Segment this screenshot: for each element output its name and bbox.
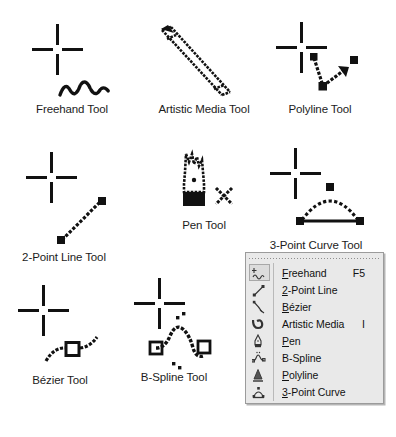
curve-tools-flyout[interactable]: FreehandF52-Point LineBézierArtistic Med… xyxy=(245,252,384,404)
artistic-media-tool-artwork xyxy=(140,22,268,102)
flyout-item-list: FreehandF52-Point LineBézierArtistic Med… xyxy=(246,263,383,403)
paintbrush-icon xyxy=(140,22,268,102)
figure-label: Pen Tool xyxy=(140,218,268,232)
menu-item-label: 2-Point Line xyxy=(273,284,355,296)
three-point-curve-tool-artwork xyxy=(252,148,380,228)
b-spline-menu-icon xyxy=(246,349,273,366)
menu-item-label: Freehand xyxy=(270,267,343,279)
menu-item-three-point-curve[interactable]: 3-Point Curve xyxy=(246,383,383,400)
figure-three-point-curve-tool: 3-Point Curve Tool xyxy=(252,148,380,252)
figure-label: Bézier Tool xyxy=(0,373,124,387)
menu-item-pen[interactable]: Pen xyxy=(246,332,383,349)
menu-item-accelerator: I xyxy=(352,318,377,330)
three-point-curve-menu-icon xyxy=(246,383,273,400)
b-spline-tool-artwork xyxy=(110,278,238,358)
figure-bezier-tool: Bézier Tool xyxy=(0,285,124,387)
menu-item-accelerator: F5 xyxy=(343,267,377,279)
figure-label: Polyline Tool xyxy=(256,102,384,116)
menu-item-b-spline[interactable]: B-Spline xyxy=(246,349,383,366)
b-spline-curve-icon xyxy=(110,278,238,360)
menu-item-label: 3-Point Curve xyxy=(273,386,355,398)
menu-item-label: B-Spline xyxy=(273,352,355,364)
bezier-menu-icon xyxy=(246,298,273,315)
bezier-tool-artwork xyxy=(0,285,124,365)
menu-item-two-point-line[interactable]: 2-Point Line xyxy=(246,281,383,298)
figure-label: Freehand Tool xyxy=(8,102,136,116)
figure-freehand-tool: Freehand Tool xyxy=(8,22,136,116)
menu-item-freehand[interactable]: FreehandF5 xyxy=(246,264,383,281)
pen-menu-icon xyxy=(246,332,273,349)
figure-label: B-Spline Tool xyxy=(110,370,238,384)
menu-item-bezier[interactable]: Bézier xyxy=(246,298,383,315)
two-point-line-menu-icon xyxy=(246,281,273,298)
figure-artistic-media-tool: Artistic Media Tool xyxy=(140,22,268,116)
figure-pen-tool: Pen Tool xyxy=(140,152,268,232)
polyline-arrow-icon xyxy=(256,22,384,102)
menu-item-artistic-media[interactable]: Artistic MediaI xyxy=(246,315,383,332)
menu-item-label: Pen xyxy=(273,335,355,347)
figure-label: 2-Point Line Tool xyxy=(0,250,128,264)
freehand-squiggle-icon xyxy=(8,22,136,102)
menu-item-label: Bézier xyxy=(273,301,355,313)
polyline-tool-artwork xyxy=(256,22,384,102)
two-point-line-tool-artwork xyxy=(0,152,128,232)
freehand-tool-artwork xyxy=(8,22,136,102)
pen-tool-artwork xyxy=(140,152,268,214)
bezier-node-icon xyxy=(0,285,124,365)
menu-item-label: Artistic Media xyxy=(273,318,352,330)
arc-three-node-icon xyxy=(252,148,380,228)
line-with-nodes-icon xyxy=(0,152,128,232)
freehand-menu-icon xyxy=(249,264,270,281)
figure-b-spline-tool: B-Spline Tool xyxy=(110,278,238,384)
flyout-drag-grip[interactable] xyxy=(249,255,380,262)
figure-polyline-tool: Polyline Tool xyxy=(256,22,384,116)
figure-label: Artistic Media Tool xyxy=(140,102,268,116)
figure-two-point-line-tool: 2-Point Line Tool xyxy=(0,152,128,264)
polyline-menu-icon xyxy=(246,366,273,383)
menu-item-label: Polyline xyxy=(273,369,355,381)
figure-label: 3-Point Curve Tool xyxy=(252,238,380,252)
artistic-media-menu-icon xyxy=(246,315,273,332)
pen-nib-icon xyxy=(140,152,268,214)
menu-item-polyline[interactable]: Polyline xyxy=(246,366,383,383)
